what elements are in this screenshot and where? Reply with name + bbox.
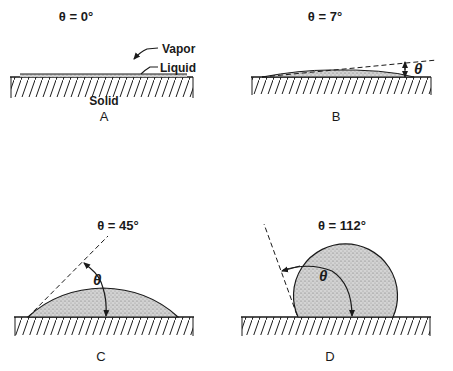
panel-d-liquid-drop (294, 244, 398, 317)
panel-d: θ = 112° θ D (241, 218, 431, 364)
panel-c-solid-surface (14, 317, 194, 336)
panel-b-title: θ = 7° (308, 9, 342, 24)
panel-d-title: θ = 112° (318, 218, 366, 233)
panel-a-title: θ = 0° (59, 9, 93, 24)
panel-b-solid-surface (251, 77, 431, 95)
panel-a-vapor-label: Vapor (162, 42, 196, 56)
panel-c-liquid-drop (28, 288, 178, 317)
panel-c-title: θ = 45° (97, 218, 139, 233)
panel-b-letter: B (332, 109, 341, 124)
panel-c-letter: C (96, 349, 105, 364)
contact-angle-figure: θ = 0° Vapor Liquid Solid A θ = 7° (0, 0, 453, 371)
panel-d-letter: D (325, 349, 334, 364)
panel-a-letter: A (100, 109, 109, 124)
panel-d-theta-symbol: θ (319, 267, 328, 284)
panel-d-tangent-line (264, 224, 297, 315)
panel-c-theta-symbol: θ (93, 271, 102, 288)
panel-a-vapor-arrow (134, 48, 158, 59)
panel-a-liquid-leader (141, 67, 158, 74)
panel-b-liquid-drop (262, 70, 414, 77)
panel-c: θ = 45° θ C (14, 218, 194, 364)
panel-b-theta-symbol: θ (414, 60, 423, 77)
panel-a: θ = 0° Vapor Liquid Solid A (10, 9, 196, 124)
panel-a-liquid-label: Liquid (160, 61, 196, 75)
panel-d-solid-surface (241, 317, 431, 336)
panel-a-solid-label: Solid (89, 94, 118, 108)
panel-b: θ = 7° θ B (251, 9, 437, 124)
